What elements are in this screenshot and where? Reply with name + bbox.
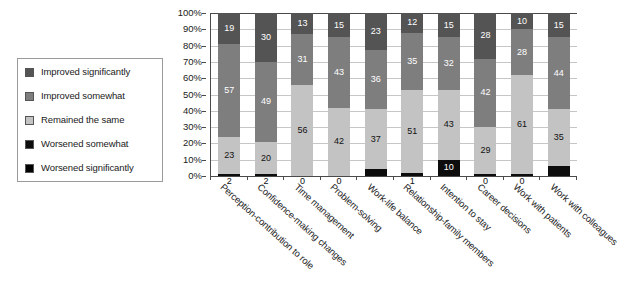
bar-slot: 1235511: [394, 13, 431, 176]
x-axis-category-label: Work with colleagues: [548, 182, 619, 247]
bar-segment[interactable]: 30: [255, 13, 277, 62]
x-tick-mark: [283, 176, 284, 180]
y-tick-label: 40%: [183, 106, 202, 116]
bar-segment-label: 35: [554, 133, 564, 142]
bar-segment[interactable]: 35: [548, 109, 570, 166]
bar-segment[interactable]: 10: [511, 13, 533, 29]
bar-segment-label: 42: [334, 137, 344, 146]
bar-stack[interactable]: 3049202: [255, 13, 277, 176]
legend-item-label: Remained the same: [41, 115, 124, 125]
bar-segment[interactable]: 31: [291, 34, 313, 85]
bar-segment[interactable]: 56: [291, 85, 313, 176]
bar-segment[interactable]: 61: [511, 75, 533, 174]
bar-segment[interactable]: 42: [474, 59, 496, 127]
y-tick-mark: [202, 127, 206, 128]
bar-segment[interactable]: 28: [474, 13, 496, 59]
bar-segment[interactable]: 12: [401, 13, 423, 33]
legend-item[interactable]: Improved significantly: [25, 65, 157, 79]
bar-segment[interactable]: [548, 166, 570, 176]
y-tick-mark: [202, 111, 206, 112]
bar-stack[interactable]: 2842290: [474, 13, 496, 176]
x-axis-labels: Perception-contribution to roleConfidenc…: [210, 182, 576, 302]
bar-segment[interactable]: 15: [438, 13, 460, 37]
legend-item[interactable]: Worsened somewhat: [25, 137, 157, 151]
y-tick-label: 0%: [188, 171, 202, 181]
bar-slot: 1028610: [504, 13, 541, 176]
bar-segment[interactable]: 57: [218, 44, 240, 137]
x-tick-mark: [247, 176, 248, 180]
bar-segment-label: 19: [224, 24, 234, 33]
bar-stack[interactable]: 154435: [548, 13, 570, 176]
y-tick-mark: [202, 95, 206, 96]
bar-segment-label: 32: [444, 59, 454, 68]
bar-slot: 2842290: [467, 13, 504, 176]
bar-segment[interactable]: 35: [401, 33, 423, 90]
bar-segment-label: 13: [297, 19, 307, 28]
legend-item[interactable]: Remained the same: [25, 113, 157, 127]
bar-segment-label: 15: [554, 21, 564, 30]
bar-segment[interactable]: 44: [548, 37, 570, 109]
bar-segment[interactable]: 23: [218, 137, 240, 174]
bar-segment-label: 28: [517, 48, 527, 57]
bar-segment[interactable]: 19: [218, 13, 240, 44]
y-tick-mark: [202, 13, 206, 14]
x-tick-mark: [356, 176, 357, 180]
x-tick-mark: [503, 176, 504, 180]
y-tick-label: 50%: [183, 90, 202, 100]
bar-segment-label: 15: [444, 21, 454, 30]
plot-area: 1957232304920213315601543420233637123551…: [210, 13, 577, 177]
legend-swatch-icon: [25, 116, 34, 125]
y-tick-mark: [202, 29, 206, 30]
bar-stack[interactable]: 1543420: [328, 13, 350, 176]
bar-segment[interactable]: 43: [438, 90, 460, 160]
bar-segment[interactable]: 37: [365, 109, 387, 169]
bar-segment[interactable]: 28: [511, 29, 533, 75]
bar-segment[interactable]: 43: [328, 37, 350, 107]
bar-segment-label: 10: [517, 17, 527, 26]
bar-segment[interactable]: 10: [438, 160, 460, 176]
bar-stack[interactable]: 1235511: [401, 13, 423, 176]
bar-segment[interactable]: 32: [438, 37, 460, 89]
bar-segment[interactable]: 29: [474, 127, 496, 174]
bar-segment[interactable]: [365, 169, 387, 176]
bar-segment[interactable]: 42: [328, 108, 350, 176]
y-tick-label: 70%: [183, 57, 202, 67]
bar-stack[interactable]: 233637: [365, 13, 387, 176]
bar-segment-label: 15: [334, 21, 344, 30]
bar-segment[interactable]: 13: [291, 13, 313, 34]
legend-item[interactable]: Improved somewhat: [25, 89, 157, 103]
bar-stack[interactable]: 15324310: [438, 13, 460, 176]
y-tick-label: 10%: [183, 155, 202, 165]
legend-swatch-icon: [25, 140, 34, 149]
bar-stack[interactable]: 1331560: [291, 13, 313, 176]
bar-segment-label: 10: [444, 163, 454, 172]
bar-segment-label: 57: [224, 86, 234, 95]
bar-segment[interactable]: 15: [328, 13, 350, 37]
y-axis: 0%10%20%30%40%50%60%70%80%90%100%: [160, 13, 206, 176]
bar-segment[interactable]: 23: [365, 13, 387, 50]
bar-segment-label: 56: [297, 126, 307, 135]
y-tick-label: 30%: [183, 122, 202, 132]
y-tick-mark: [202, 160, 206, 161]
legend-item-label: Worsened significantly: [41, 163, 134, 173]
legend-swatch-icon: [25, 68, 34, 77]
bar-segment-label: 29: [480, 146, 490, 155]
x-tick-mark: [430, 176, 431, 180]
legend-item[interactable]: Worsened significantly: [25, 161, 157, 175]
bar-stack[interactable]: 1957232: [218, 13, 240, 176]
bar-slot: 154435: [540, 13, 577, 176]
bar-stack[interactable]: 1028610: [511, 13, 533, 176]
bar-segment-label: 61: [517, 120, 527, 129]
legend-item-label: Worsened somewhat: [41, 139, 128, 149]
bar-segment[interactable]: 20: [255, 142, 277, 175]
bar-segment[interactable]: 51: [401, 90, 423, 173]
bar-segment[interactable]: 15: [548, 13, 570, 37]
bar-segment-label: 23: [224, 151, 234, 160]
bar-segment-label: 20: [261, 154, 271, 163]
bar-segment[interactable]: 36: [365, 50, 387, 109]
x-tick-mark: [210, 176, 211, 180]
bar-segment[interactable]: 49: [255, 62, 277, 142]
y-tick-label: 90%: [183, 24, 202, 34]
y-tick-label: 80%: [183, 41, 202, 51]
